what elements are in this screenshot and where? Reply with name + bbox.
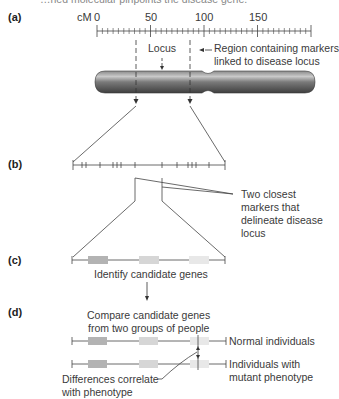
markers-annotation-3: delineate disease	[241, 214, 323, 227]
tick-0: 0	[94, 11, 100, 24]
panel-d-label: (d)	[8, 306, 22, 318]
markers-annotation-2: markers that	[241, 201, 299, 214]
panel-a-label: (a)	[8, 11, 21, 23]
mutant-gene-line	[72, 358, 226, 370]
compare-caption-2: from two groups of people	[88, 322, 209, 335]
compare-caption-1: Compare candidate genes	[87, 309, 210, 322]
markers-annotation-4: locus	[241, 227, 266, 240]
region-label-2: linked to disease locus	[214, 55, 320, 68]
locus-label: Locus	[148, 42, 176, 55]
cm-ruler	[97, 25, 311, 37]
normal-gene-line	[72, 335, 226, 347]
difference-label-1: Differences correlate	[62, 373, 159, 386]
scale-unit: cM	[77, 11, 92, 24]
region-label-1: Region containing markers	[214, 42, 339, 55]
candidate-genes-caption: Identify candidate genes	[94, 268, 208, 281]
difference-label-2: with phenotype	[62, 386, 133, 399]
tick-50: 50	[145, 11, 157, 24]
tick-100: 100	[195, 11, 213, 24]
markers-annotation-1: Two closest	[241, 188, 296, 201]
panel-b-label: (b)	[8, 158, 22, 170]
mutant-label-1: Individuals with	[229, 358, 300, 371]
tick-150: 150	[249, 11, 267, 24]
region-arrowheads	[134, 99, 193, 104]
chromosome	[95, 71, 315, 93]
mutant-label-2: mutant phenotype	[229, 371, 313, 384]
panel-c-label: (c)	[8, 254, 21, 266]
normal-individuals-label: Normal individuals	[229, 335, 315, 348]
candidate-genes-line	[72, 256, 225, 264]
marker-map	[73, 160, 225, 170]
